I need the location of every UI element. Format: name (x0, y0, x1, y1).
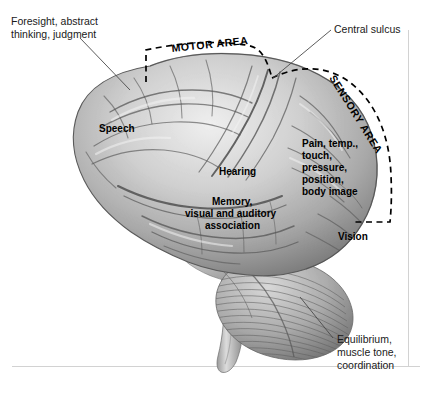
foresight-line-1: Foresight, abstract (11, 15, 98, 27)
somatosensory-line-2: touch, (302, 150, 332, 161)
brain-diagram-svg: Foresight, abstract thinking, judgment C… (0, 0, 433, 400)
equilibrium-line-1: Equilibrium, (337, 333, 392, 345)
callout-central-sulcus: Central sulcus (334, 23, 401, 35)
somatosensory-line-1: Pain, temp., (302, 138, 358, 149)
central-sulcus-label: Central sulcus (334, 23, 401, 35)
somatosensory-line-5: body image (302, 186, 358, 197)
memory-line-1: Memory, (212, 196, 253, 207)
equilibrium-line-2: muscle tone, (337, 346, 397, 358)
hearing-label: Hearing (219, 166, 256, 177)
foresight-line-2: thinking, judgment (11, 28, 96, 40)
callout-equilibrium: Equilibrium, muscle tone, coordination (337, 333, 397, 371)
brain-diagram-figure: Foresight, abstract thinking, judgment C… (0, 0, 433, 400)
speech-label: Speech (99, 123, 135, 134)
somatosensory-line-3: pressure, (302, 162, 347, 173)
vision-label: Vision (338, 231, 368, 242)
memory-line-3: association (205, 220, 260, 231)
somatosensory-line-4: position, (302, 174, 344, 185)
equilibrium-line-3: coordination (337, 359, 394, 371)
memory-line-2: visual and auditory (185, 208, 277, 219)
callout-foresight: Foresight, abstract thinking, judgment (11, 15, 98, 40)
